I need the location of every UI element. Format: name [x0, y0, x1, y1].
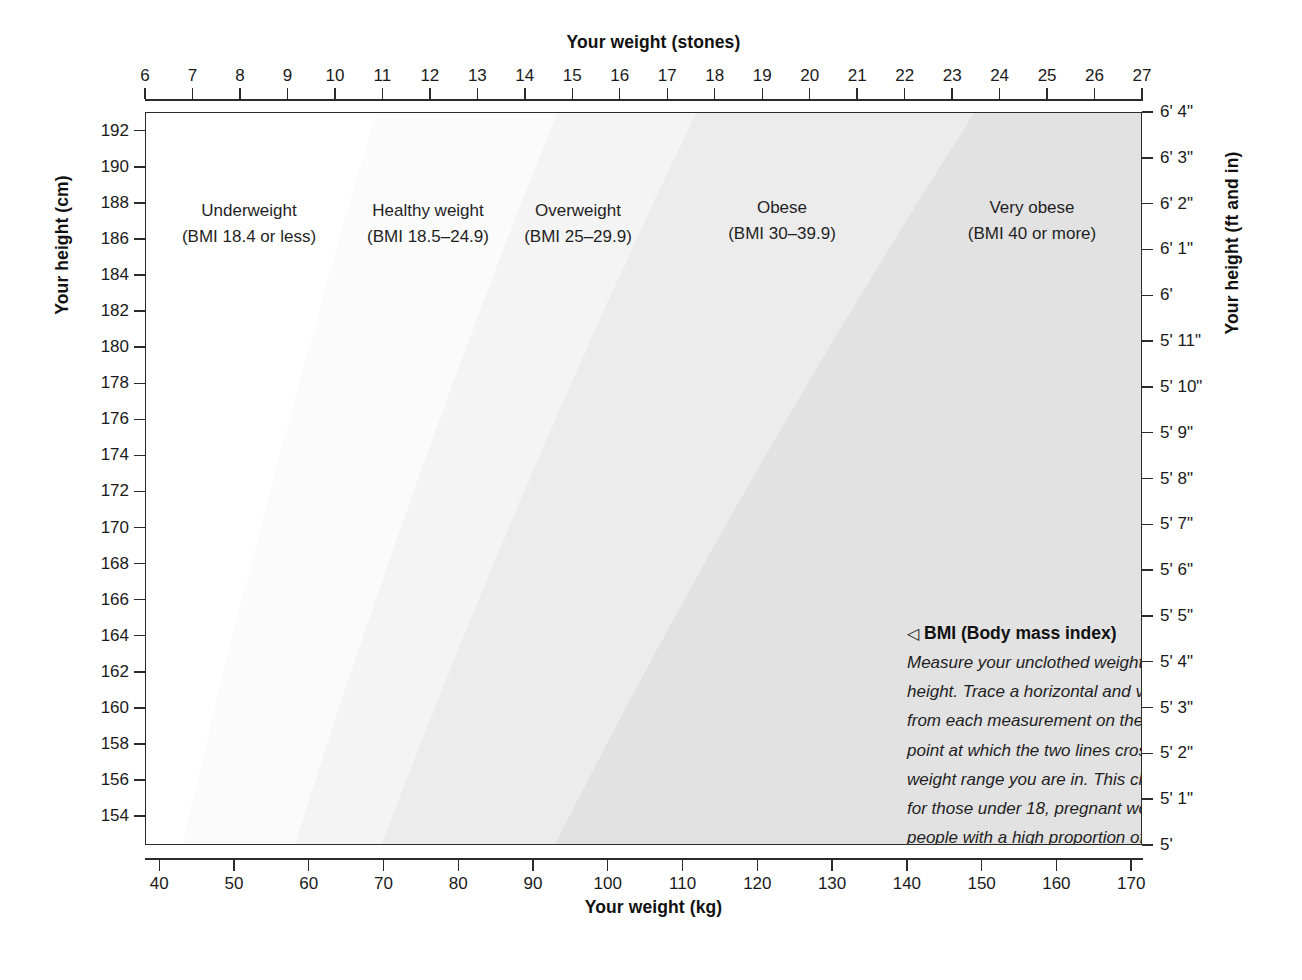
tick-label-ft: 5' 5" [1160, 606, 1193, 626]
tick-label-kg: 80 [449, 874, 468, 894]
right-axis-title: Your height (ft and in) [1222, 118, 1243, 368]
tick-label-cm: 170 [93, 518, 129, 538]
tick-mark-stones [1046, 88, 1047, 99]
tick-label-stones: 26 [1085, 66, 1104, 86]
tick-label-cm: 174 [93, 445, 129, 465]
tick-mark-ft [1142, 340, 1153, 341]
tick-mark-ft [1142, 203, 1153, 204]
tick-label-stones: 18 [705, 66, 724, 86]
tick-label-cm: 154 [93, 806, 129, 826]
tick-mark-ft [1142, 753, 1153, 754]
tick-mark-ft [1142, 111, 1153, 112]
tick-mark-kg [458, 860, 459, 871]
tick-label-stones: 14 [515, 66, 534, 86]
tick-mark-ft [1142, 569, 1153, 570]
tick-mark-ft [1142, 707, 1153, 708]
tick-label-stones: 25 [1038, 66, 1057, 86]
tick-mark-stones [144, 88, 145, 99]
tick-mark-kg [308, 860, 309, 871]
tick-label-stones: 20 [800, 66, 819, 86]
tick-mark-ft [1142, 432, 1153, 433]
tick-mark-cm [134, 527, 145, 528]
tick-label-ft: 5' 10" [1160, 377, 1202, 397]
tick-label-kg: 100 [594, 874, 622, 894]
annotation-heading: ◁BMI (Body mass index) [907, 621, 1142, 646]
triangle-left-icon: ◁ [907, 625, 919, 642]
tick-mark-cm [134, 238, 145, 239]
tick-mark-stones [1141, 88, 1142, 99]
tick-label-ft: 6' 2" [1160, 194, 1193, 214]
tick-mark-stones [1094, 88, 1095, 99]
top-axis-title: Your weight (stones) [0, 32, 1302, 53]
tick-mark-kg [682, 860, 683, 871]
tick-mark-cm [134, 635, 145, 636]
tick-label-cm: 172 [93, 481, 129, 501]
annotation-heading-text: BMI (Body mass index) [924, 623, 1117, 643]
tick-mark-cm [134, 815, 145, 816]
tick-label-stones: 8 [235, 66, 244, 86]
tick-mark-ft [1142, 295, 1153, 296]
tick-label-kg: 130 [818, 874, 846, 894]
tick-mark-stones [572, 88, 573, 99]
zone-label: Very obese(BMI 40 or more) [968, 195, 1096, 247]
tick-label-stones: 11 [374, 66, 392, 86]
tick-mark-ft [1142, 157, 1153, 158]
tick-mark-stones [334, 88, 335, 99]
tick-mark-ft [1142, 478, 1153, 479]
tick-label-cm: 186 [93, 229, 129, 249]
tick-mark-ft [1142, 249, 1153, 250]
tick-mark-cm [134, 419, 145, 420]
tick-label-stones: 22 [895, 66, 914, 86]
tick-mark-kg [1130, 860, 1131, 871]
tick-label-stones: 7 [188, 66, 197, 86]
tick-label-cm: 160 [93, 698, 129, 718]
zone-label-range: (BMI 40 or more) [968, 221, 1096, 247]
tick-mark-cm [134, 455, 145, 456]
tick-label-stones: 12 [420, 66, 439, 86]
left-axis-title: Your height (cm) [52, 120, 73, 370]
zone-label: Healthy weight(BMI 18.5–24.9) [367, 198, 489, 250]
tick-label-ft: 5' 9" [1160, 423, 1193, 443]
tick-label-kg: 170 [1117, 874, 1145, 894]
tick-label-cm: 176 [93, 409, 129, 429]
tick-label-stones: 24 [990, 66, 1009, 86]
tick-label-stones: 17 [658, 66, 677, 86]
zone-label-name: Very obese [968, 195, 1096, 221]
tick-label-stones: 6 [140, 66, 149, 86]
tick-label-stones: 13 [468, 66, 487, 86]
tick-mark-kg [532, 860, 533, 871]
tick-mark-stones [477, 88, 478, 99]
tick-label-stones: 27 [1133, 66, 1152, 86]
zone-label: Underweight(BMI 18.4 or less) [182, 198, 316, 250]
tick-label-cm: 184 [93, 265, 129, 285]
tick-label-stones: 15 [563, 66, 582, 86]
tick-mark-cm [134, 274, 145, 275]
tick-label-ft: 6' 3" [1160, 148, 1193, 168]
tick-mark-stones [809, 88, 810, 99]
tick-label-ft: 5' 2" [1160, 743, 1193, 763]
tick-label-cm: 178 [93, 373, 129, 393]
tick-mark-cm [134, 383, 145, 384]
tick-label-stones: 21 [848, 66, 867, 86]
tick-mark-stones [239, 88, 240, 99]
tick-label-ft: 5' 1" [1160, 789, 1193, 809]
tick-mark-cm [134, 707, 145, 708]
tick-label-stones: 16 [610, 66, 629, 86]
plot-area: Underweight(BMI 18.4 or less)Healthy wei… [145, 112, 1142, 845]
tick-mark-kg [607, 860, 608, 871]
tick-label-kg: 40 [150, 874, 169, 894]
tick-mark-kg [831, 860, 832, 871]
tick-label-ft: 5' [1160, 835, 1173, 855]
tick-label-ft: 5' 8" [1160, 469, 1193, 489]
tick-mark-cm [134, 599, 145, 600]
tick-label-kg: 160 [1042, 874, 1070, 894]
tick-label-ft: 5' 11" [1160, 331, 1201, 351]
zone-label-name: Healthy weight [367, 198, 489, 224]
zone-label-name: Obese [728, 195, 836, 221]
tick-mark-stones [856, 88, 857, 99]
tick-label-cm: 190 [93, 157, 129, 177]
bmi-chart: Your weight (stones) Your weight (kg) Yo… [0, 0, 1302, 980]
tick-label-ft: 6' 4" [1160, 102, 1193, 122]
tick-mark-stones [429, 88, 430, 99]
tick-label-stones: 23 [943, 66, 962, 86]
